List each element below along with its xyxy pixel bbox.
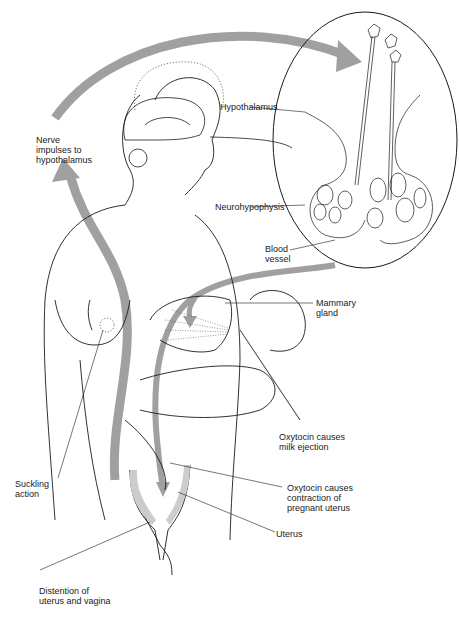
nerve-to-hypothalamus-arrow <box>55 36 345 118</box>
label-mammary-gland: Mammary gland <box>316 298 356 318</box>
arrowhead-inset <box>336 40 362 72</box>
label-oxytocin-milk-ejection: Oxytocin causes milk ejection <box>279 432 345 452</box>
label-distention: Distention of uterus and vagina <box>39 586 111 606</box>
label-nerve-impulses: Nerve impulses to hypothalamus <box>36 135 92 165</box>
label-blood-vessel: Blood vessel <box>265 244 291 264</box>
label-neurohypophysis: Neurohypophysis <box>215 202 285 212</box>
oxytocin-reflex-diagram: Nerve impulses to hypothalamus Hypothala… <box>0 0 459 617</box>
diagram-drawing <box>0 0 459 617</box>
label-uterus: Uterus <box>276 529 303 539</box>
arrowhead-breast <box>183 316 197 328</box>
arrowhead-down-uterus <box>156 482 170 497</box>
label-hypothalamus: Hypothalamus <box>220 102 278 112</box>
hypothalamus-inset <box>273 12 457 268</box>
label-oxytocin-uterus-contraction: Oxytocin causes contraction of pregnant … <box>287 483 353 513</box>
upward-nerve-arrow <box>70 175 127 480</box>
label-suckling-action: Suckling action <box>15 479 49 499</box>
